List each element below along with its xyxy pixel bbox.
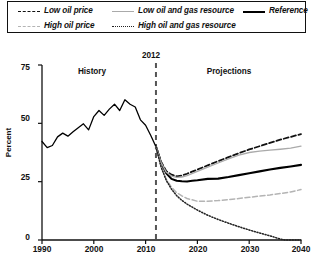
legend-label-high-oil-price: High oil price <box>44 21 94 31</box>
x-tick-label-2000: 2000 <box>74 244 114 254</box>
legend-row-2: High oil price High oil and gas resource <box>8 19 305 33</box>
annotation-divider-year: 2012 <box>131 51 171 60</box>
legend-swatch-low-oil-price <box>18 6 40 16</box>
y-tick-label-75: 75 <box>8 62 30 72</box>
legend-item-reference: Reference <box>243 4 308 18</box>
legend-row-1: Low oil price Low oil and gas resource R… <box>8 4 305 18</box>
series-history <box>42 100 156 148</box>
series-high-oil-and-gas-resource <box>156 147 301 240</box>
x-tick-label-2010: 2010 <box>126 244 166 254</box>
legend-item-high-oil-price: High oil price <box>18 19 94 33</box>
series-reference <box>156 147 301 182</box>
legend-swatch-high-oil-price <box>18 21 40 31</box>
x-tick-label-2030: 2030 <box>230 244 270 254</box>
annotation-projections: Projections <box>194 67 264 76</box>
legend-item-low-oil-and-gas-resource: Low oil and gas resource <box>112 4 234 18</box>
y-axis-title: Percent <box>4 121 13 165</box>
series-low-oil-price <box>156 134 301 176</box>
legend-label-high-oil-and-gas-resource: High oil and gas resource <box>138 21 236 31</box>
legend-item-low-oil-price: Low oil price <box>18 4 93 18</box>
chart-plot-area <box>0 0 315 264</box>
legend-item-high-oil-and-gas-resource: High oil and gas resource <box>112 19 236 33</box>
annotation-history: History <box>62 67 122 76</box>
series-high-oil-price <box>156 147 301 202</box>
y-tick-label-50: 50 <box>8 113 30 123</box>
legend-swatch-low-oil-and-gas-resource <box>112 6 134 16</box>
x-tick-label-2020: 2020 <box>178 244 218 254</box>
y-tick-label-0: 0 <box>8 232 30 242</box>
series-low-oil-and-gas-resource <box>156 146 301 177</box>
y-tick-label-25: 25 <box>8 172 30 182</box>
legend-label-reference: Reference <box>269 6 308 16</box>
legend-label-low-oil-price: Low oil price <box>44 6 93 16</box>
legend-swatch-reference <box>243 6 265 16</box>
chart-legend: Low oil price Low oil and gas resource R… <box>7 1 306 33</box>
x-tick-label-2040: 2040 <box>281 244 315 254</box>
legend-swatch-high-oil-and-gas-resource <box>112 21 134 31</box>
legend-label-low-oil-and-gas-resource: Low oil and gas resource <box>138 6 234 16</box>
chart-figure: Low oil price Low oil and gas resource R… <box>0 0 315 264</box>
x-tick-label-1990: 1990 <box>22 244 62 254</box>
